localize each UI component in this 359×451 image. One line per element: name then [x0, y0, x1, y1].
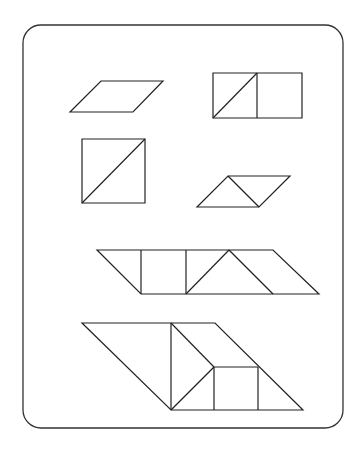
long-parallelogram-row — [97, 250, 319, 294]
long-parallelogram-row-inner-line — [229, 250, 273, 294]
rectangle-two-squares — [213, 73, 302, 118]
long-parallelogram-row-inner-line — [186, 250, 229, 294]
large-composite-trapezoid — [82, 323, 303, 410]
parallelogram-two-triangles — [197, 176, 290, 207]
square-split-diagonal-inner-line — [82, 139, 145, 203]
parallelogram-small — [70, 81, 163, 112]
rectangle-two-squares-inner-line — [213, 73, 257, 118]
parallelogram-small-outline — [70, 81, 163, 112]
square-split-diagonal — [82, 139, 145, 203]
large-composite-trapezoid-outline — [82, 323, 303, 410]
shapes-group — [70, 73, 319, 410]
tangram-diagram — [0, 0, 359, 451]
large-composite-trapezoid-inner-line — [171, 367, 214, 410]
parallelogram-two-triangles-inner-line — [228, 176, 259, 207]
rounded-frame — [23, 25, 343, 428]
large-composite-trapezoid-inner-line — [171, 323, 214, 367]
